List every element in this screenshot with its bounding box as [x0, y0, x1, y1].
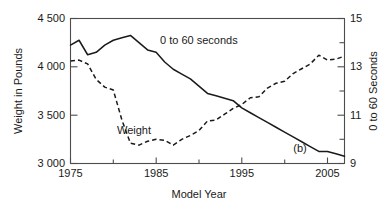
- y-right-tick-label: 15: [350, 12, 362, 24]
- series-annotation-0-to-60-seconds: 0 to 60 seconds: [160, 34, 238, 46]
- series-line-weight: [71, 55, 345, 145]
- y-left-tick-label: 3 000: [37, 157, 65, 169]
- series-line-0-to-60-seconds: [71, 35, 345, 156]
- x-axis-title: Model Year: [171, 188, 226, 200]
- y-right-tick-label: 11: [350, 109, 361, 121]
- y-right-tick-label: 9: [350, 157, 356, 169]
- x-tick-labels: 1975 1985 1995 2005: [58, 167, 339, 179]
- y-left-tick-labels: 3 000 3 500 4 000 4 500: [37, 12, 65, 169]
- panel-label: (b): [293, 142, 306, 154]
- chart-canvas: 1975 1985 1995 2005 3 000 3 500 4 000 4 …: [0, 0, 392, 208]
- y-right-tick-labels: 9 11 13 15: [350, 12, 362, 169]
- y-left-tick-label: 4 000: [37, 60, 65, 72]
- y-axis-right-ticks: [338, 19, 345, 164]
- series-annotation-weight: Weight: [117, 124, 151, 136]
- x-tick-label: 1995: [230, 167, 254, 179]
- y-left-tick-label: 3 500: [37, 109, 65, 121]
- y-axis-left-title: Weight in Pounds: [12, 47, 24, 134]
- chart-figure: 1975 1985 1995 2005 3 000 3 500 4 000 4 …: [0, 0, 392, 208]
- x-tick-label: 1985: [144, 167, 168, 179]
- y-left-tick-label: 4 500: [37, 12, 65, 24]
- y-axis-left-ticks: [71, 19, 78, 164]
- x-tick-label: 2005: [315, 167, 339, 179]
- y-right-tick-label: 13: [350, 60, 362, 72]
- x-axis-ticks: [71, 158, 328, 164]
- y-axis-right-title: 0 to 60 Seconds: [367, 51, 379, 131]
